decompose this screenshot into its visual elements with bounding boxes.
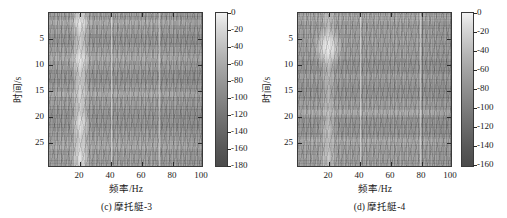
ytick-mark-c <box>49 91 53 92</box>
xtick-mark-d <box>451 162 452 166</box>
ytick-mark-d <box>447 117 451 118</box>
xtick-mark-c <box>142 162 143 166</box>
xtick-mark-c <box>142 13 143 17</box>
colorbar-label-c: -180 <box>231 160 248 170</box>
colorbar-d <box>461 12 474 167</box>
ytick-mark-d <box>298 117 302 118</box>
xtick-label-d: 80 <box>417 170 426 180</box>
xtick-label-c: 60 <box>137 170 146 180</box>
ytick-mark-c <box>198 117 202 118</box>
yaxis-title-d: 时间/s <box>259 60 273 120</box>
colorbar-label-c: -40 <box>231 41 243 51</box>
colorbar-label-d: -20 <box>477 26 489 36</box>
xtick-label-c: 100 <box>194 170 208 180</box>
ytick-mark-d <box>447 39 451 40</box>
xaxis-title-c: 频率/Hz <box>86 181 166 195</box>
xtick-mark-c <box>173 162 174 166</box>
ytick-mark-d <box>447 65 451 66</box>
xtick-mark-d <box>391 13 392 17</box>
xtick-mark-d <box>391 162 392 166</box>
seam-40hz-d <box>360 13 361 166</box>
xtick-mark-c <box>80 13 81 17</box>
xtick-mark-d <box>422 162 423 166</box>
panel-motorboat-4: 20 40 60 80 100 5 10 15 20 25 时间/s 频率/Hz… <box>253 0 506 218</box>
colorbar-label-c: -80 <box>231 75 243 85</box>
yaxis-title-c: 时间/s <box>10 60 24 120</box>
xtick-mark-d <box>451 13 452 17</box>
ytick-label-c: 25 <box>26 137 44 147</box>
xtick-mark-d <box>329 162 330 166</box>
ytick-label-c: 15 <box>26 85 44 95</box>
caption-panel-c: (c) 摩托艇-3 <box>0 199 253 213</box>
xaxis-title-d: 频率/Hz <box>335 181 415 195</box>
xtick-label-c: 40 <box>106 170 115 180</box>
xtick-mark-d <box>360 162 361 166</box>
ytick-mark-c <box>49 65 53 66</box>
xtick-label-d: 40 <box>355 170 364 180</box>
xtick-mark-d <box>422 13 423 17</box>
high-frequency-rolloff-d <box>417 13 451 166</box>
figure-spectrogram-pair: 20 40 60 80 100 5 10 15 20 25 时间/s 频率/Hz… <box>0 0 507 218</box>
ytick-mark-d <box>298 91 302 92</box>
colorbar-label-c: -140 <box>231 126 248 136</box>
ytick-mark-c <box>49 117 53 118</box>
xtick-label-d: 60 <box>386 170 395 180</box>
colorbar-label-d: -100 <box>477 102 494 112</box>
colorbar-label-c: -100 <box>231 92 248 102</box>
colorbar-label-d: -120 <box>477 121 494 131</box>
xtick-mark-c <box>80 162 81 166</box>
xtick-mark-c <box>111 162 112 166</box>
colorbar-label-c: -160 <box>231 143 248 153</box>
colorbar-label-c: 0 <box>231 7 236 17</box>
caption-panel-d: (d) 摩托艇-4 <box>253 199 506 213</box>
spectrogram-plot-c <box>48 12 203 167</box>
ytick-mark-c <box>198 65 202 66</box>
high-frequency-rolloff-c <box>154 13 202 166</box>
spectrogram-plot-d <box>297 12 452 167</box>
ytick-mark-d <box>298 65 302 66</box>
colorbar-label-d: -40 <box>477 45 489 55</box>
xtick-mark-c <box>202 13 203 17</box>
ytick-label-c: 10 <box>26 59 44 69</box>
ytick-mark-d <box>447 91 451 92</box>
colorbar-label-d: -140 <box>477 140 494 150</box>
colorbar-label-d: -60 <box>477 64 489 74</box>
ytick-label-d: 10 <box>275 59 293 69</box>
colorbar-label-c: -20 <box>231 24 243 34</box>
colorbar-label-d: -160 <box>477 159 494 169</box>
ytick-label-d: 15 <box>275 85 293 95</box>
xtick-label-c: 80 <box>168 170 177 180</box>
ytick-mark-d <box>298 143 302 144</box>
ytick-label-d: 25 <box>275 137 293 147</box>
xtick-label-c: 20 <box>75 170 84 180</box>
colorbar-label-d: 0 <box>477 7 482 17</box>
ytick-mark-d <box>447 143 451 144</box>
ytick-mark-d <box>298 39 302 40</box>
xtick-mark-d <box>329 13 330 17</box>
ytick-mark-c <box>49 39 53 40</box>
colorbar-label-d: -80 <box>477 83 489 93</box>
xtick-label-d: 20 <box>324 170 333 180</box>
xtick-mark-d <box>360 13 361 17</box>
colorbar-c <box>215 12 228 167</box>
ytick-mark-c <box>49 143 53 144</box>
colorbar-label-c: -60 <box>231 58 243 68</box>
ytick-label-c: 5 <box>26 33 44 43</box>
seam-40hz-c <box>111 13 112 166</box>
panel-motorboat-3: 20 40 60 80 100 5 10 15 20 25 时间/s 频率/Hz… <box>0 0 253 218</box>
xtick-mark-c <box>111 13 112 17</box>
ytick-label-d: 5 <box>275 33 293 43</box>
ytick-mark-c <box>198 143 202 144</box>
colorbar-label-c: -120 <box>231 109 248 119</box>
xtick-mark-c <box>173 13 174 17</box>
xtick-mark-c <box>202 162 203 166</box>
ytick-mark-c <box>198 91 202 92</box>
ytick-label-d: 20 <box>275 111 293 121</box>
ytick-mark-c <box>198 39 202 40</box>
xtick-label-d: 100 <box>443 170 457 180</box>
ytick-label-c: 20 <box>26 111 44 121</box>
